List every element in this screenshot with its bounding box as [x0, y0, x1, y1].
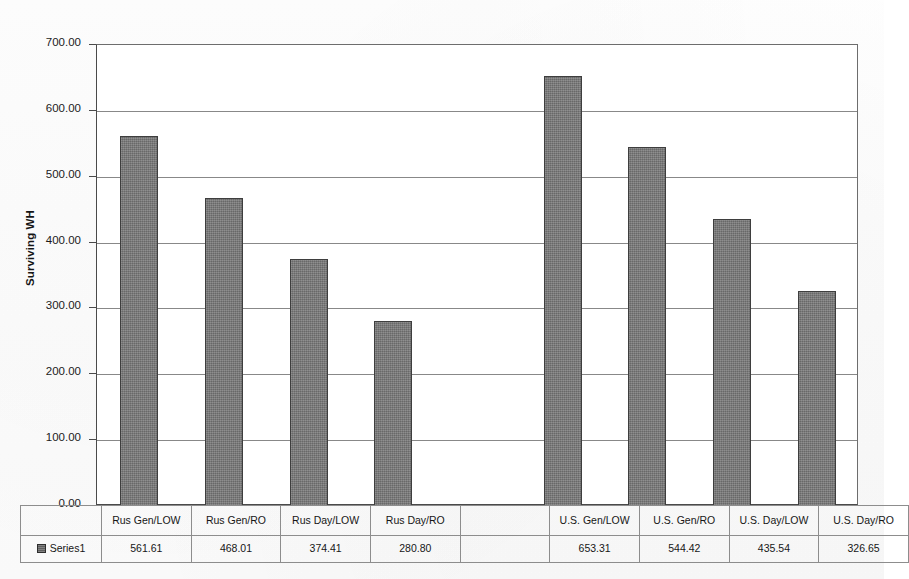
gridline — [97, 111, 857, 112]
y-axis-tick-mark — [89, 242, 96, 243]
y-axis-tick-label: 600.00 — [11, 102, 81, 114]
value-cell: 468.01 — [191, 536, 281, 563]
category-label-cell: U.S. Day/RO — [819, 506, 909, 536]
bar — [205, 198, 243, 506]
value-cell: 435.54 — [729, 536, 819, 563]
gridline — [97, 177, 857, 178]
category-label-cell: Rus Day/RO — [370, 506, 460, 536]
y-axis-tick-label: 200.00 — [11, 365, 81, 377]
bar — [544, 76, 582, 506]
value-cell: 326.65 — [819, 536, 909, 563]
y-axis-tick-label: 400.00 — [11, 234, 81, 246]
category-header-row: Rus Gen/LOWRus Gen/RORus Day/LOWRus Day/… — [21, 506, 909, 536]
bar — [628, 147, 666, 506]
y-axis-tick-label: 300.00 — [11, 299, 81, 311]
bar — [798, 291, 836, 506]
data-table: Rus Gen/LOWRus Gen/RORus Day/LOWRus Day/… — [20, 505, 858, 561]
plot-area — [96, 44, 858, 505]
y-axis-tick-label: 700.00 — [11, 36, 81, 48]
y-axis-tick-mark — [89, 307, 96, 308]
y-axis-tick-mark — [89, 439, 96, 440]
legend-spacer-cell — [21, 506, 102, 536]
value-cell: 280.80 — [370, 536, 460, 563]
bar — [374, 321, 412, 506]
value-cell: 544.42 — [639, 536, 729, 563]
y-axis-tick-mark — [89, 110, 96, 111]
legend-cell: Series1 — [21, 536, 102, 563]
y-axis-tick-label: 500.00 — [11, 168, 81, 180]
category-empty-cell — [460, 506, 550, 536]
legend-label: Series1 — [50, 542, 86, 554]
series-swatch-icon — [37, 544, 46, 553]
y-axis-tick-label: 100.00 — [11, 431, 81, 443]
category-label-cell: Rus Day/LOW — [281, 506, 371, 536]
category-label-cell: Rus Gen/LOW — [102, 506, 192, 536]
value-empty-cell — [460, 536, 550, 563]
value-row: Series1 561.61468.01374.41280.80653.3154… — [21, 536, 909, 563]
y-axis-tick-mark — [89, 176, 96, 177]
category-label-cell: U.S. Gen/RO — [639, 506, 729, 536]
bar — [713, 219, 751, 506]
y-axis-tick-mark — [89, 373, 96, 374]
bar — [120, 136, 158, 506]
bar — [290, 259, 328, 506]
category-label-cell: U.S. Gen/LOW — [550, 506, 640, 536]
series-data-table: Rus Gen/LOWRus Gen/RORus Day/LOWRus Day/… — [20, 505, 909, 563]
value-cell: 561.61 — [102, 536, 192, 563]
y-axis-tick-mark — [89, 44, 96, 45]
value-cell: 653.31 — [550, 536, 640, 563]
category-label-cell: U.S. Day/LOW — [729, 506, 819, 536]
value-cell: 374.41 — [281, 536, 371, 563]
category-label-cell: Rus Gen/RO — [191, 506, 281, 536]
y-axis-title: Surviving WH — [24, 188, 36, 308]
